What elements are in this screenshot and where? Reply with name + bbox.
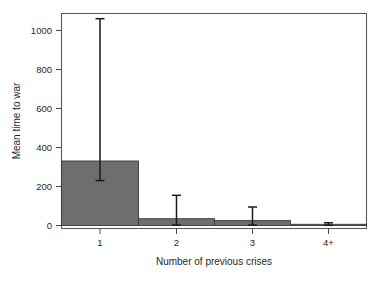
y-tick-label-400: 400 xyxy=(36,142,52,153)
x-tick-label-1: 1 xyxy=(97,237,102,248)
y-tick-label-0: 0 xyxy=(47,220,52,231)
y-tick-label-200: 200 xyxy=(36,181,52,192)
bar-chart-svg: 0 200 400 600 800 1000 Mean time to war xyxy=(0,0,377,281)
x-tick-label-3: 3 xyxy=(250,237,255,248)
chart-figure: 0 200 400 600 800 1000 Mean time to war xyxy=(0,0,377,281)
x-axis-group: 1 2 3 4+ xyxy=(97,229,334,249)
y-tick-label-600: 600 xyxy=(36,103,52,114)
bars-group xyxy=(62,161,367,226)
y-tick-label-800: 800 xyxy=(36,64,52,75)
y-tick-label-1000: 1000 xyxy=(31,25,52,36)
x-axis-title: Number of previous crises xyxy=(156,256,272,267)
y-axis-group: 0 200 400 600 800 1000 xyxy=(31,25,62,231)
x-tick-label-4plus: 4+ xyxy=(323,237,334,248)
y-axis-title: Mean time to war xyxy=(11,82,22,159)
x-tick-label-2: 2 xyxy=(174,237,179,248)
